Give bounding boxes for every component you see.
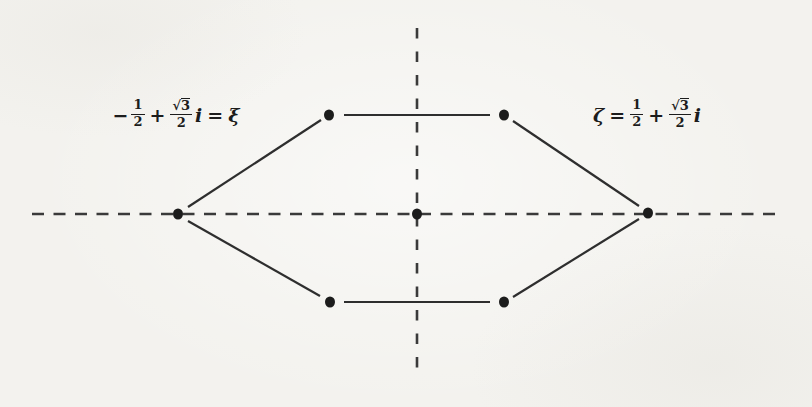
sqrt3-over-2-fraction: √ 3 2 — [170, 98, 192, 131]
sqrt3-over-2-fraction: √ 3 2 — [669, 98, 691, 131]
radical-sign: √ — [172, 99, 181, 114]
xi-symbol: ξ — [228, 104, 239, 126]
imaginary-unit: i — [694, 104, 701, 126]
fraction-numerator: √ 3 — [669, 98, 691, 115]
fraction-denominator: 2 — [675, 115, 684, 130]
radicand: 3 — [680, 98, 689, 114]
xi-root-label: − 1 2 + √ 3 2 i = ξ — [98, 94, 254, 136]
fraction-denominator: 2 — [632, 115, 641, 130]
zeta-root-label: ζ = 1 2 + √ 3 2 i — [578, 94, 716, 136]
fraction-numerator: √ 3 — [170, 98, 192, 115]
equals-sign: = — [609, 104, 625, 126]
figure-page: − 1 2 + √ 3 2 i = ξ ζ = 1 2 + √ 3 — [0, 0, 812, 407]
equals-sign: = — [207, 104, 223, 126]
radical-sign: √ — [671, 99, 680, 114]
fraction-denominator: 2 — [133, 115, 142, 130]
lower-left-vertex-dot — [325, 296, 335, 307]
lower-right-vertex-dot — [499, 296, 509, 307]
fraction-denominator: 2 — [177, 115, 186, 130]
plus-sign: + — [648, 104, 664, 126]
hexagon-edge-lower-right — [513, 219, 639, 297]
plus-sign: + — [150, 104, 166, 126]
zeta-symbol: ζ — [593, 104, 604, 126]
origin-dot — [412, 208, 422, 219]
right-vertex-dot — [643, 207, 653, 218]
one-half-fraction: 1 2 — [630, 98, 643, 130]
fraction-numerator: 1 — [630, 98, 643, 114]
upper-left-vertex-dot — [324, 109, 334, 120]
left-vertex-dot — [173, 208, 183, 219]
imaginary-unit: i — [195, 104, 202, 126]
radicand: 3 — [181, 98, 190, 114]
roots-of-unity-diagram — [0, 0, 812, 407]
minus-sign: − — [113, 104, 129, 126]
hexagon-edge-lower-left — [188, 221, 320, 296]
upper-right-vertex-dot — [499, 109, 509, 120]
one-half-fraction: 1 2 — [131, 98, 144, 130]
fraction-numerator: 1 — [131, 98, 144, 114]
